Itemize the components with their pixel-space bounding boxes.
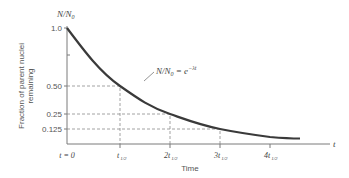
x-tick-labels: t = 0 t1/2 2t1/2 3t1/2 4t1/2: [59, 151, 278, 161]
decay-chart: N/N0 = e−λt N/N0 t 1.0 0.50 0.25 0.125 t…: [0, 0, 349, 178]
x-axis-symbol: t: [333, 139, 336, 149]
x-tick-label: 3t1/2: [213, 151, 228, 161]
guide-eighth: [67, 129, 220, 144]
axes: [64, 26, 330, 148]
y-axis-label: Fraction of parent nuclei remaining: [17, 43, 35, 129]
y-axis-symbol: N/N0: [56, 9, 75, 20]
x-tick-label: t1/2: [117, 151, 127, 161]
y-tick-label: 0.25: [46, 110, 62, 119]
y-tick-labels: 1.0 0.50 0.25 0.125: [42, 24, 63, 134]
x-axis-label: Time: [181, 164, 199, 173]
y-axis-label-line2: remaining: [26, 68, 35, 103]
y-tick-label: 0.125: [42, 125, 63, 134]
y-tick-label: 0.50: [46, 82, 62, 91]
x-tick-label: 4t1/2: [264, 151, 278, 161]
equation-label: N/N0 = e−λt: [155, 65, 197, 77]
x-tick-label: 2t1/2: [164, 151, 178, 161]
y-axis-label-line1: Fraction of parent nuclei: [17, 43, 26, 129]
guide-lines: [67, 86, 220, 144]
y-tick-label: 1.0: [51, 24, 63, 33]
guide-half: [67, 86, 120, 144]
decay-curve: [67, 28, 300, 139]
x-tick-label: t = 0: [59, 151, 75, 160]
equation-leader: [144, 72, 154, 81]
